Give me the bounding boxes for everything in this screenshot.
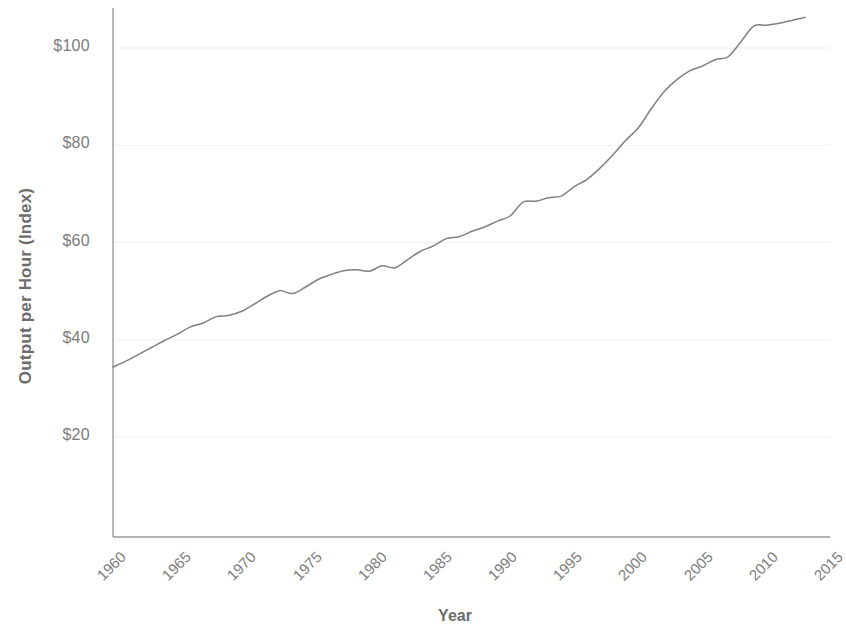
y-tick-label: $60	[12, 232, 90, 250]
x-axis-title: Year	[395, 607, 515, 625]
y-tick-label: $100	[12, 37, 90, 55]
y-tick-label: $40	[12, 329, 90, 347]
data-line	[113, 17, 805, 367]
axis-lines-group	[113, 8, 830, 537]
data-series-group	[113, 17, 805, 367]
gridlines-group	[114, 48, 830, 437]
y-axis-title: Output per Hour (Index)	[16, 176, 36, 396]
y-tick-label: $20	[12, 426, 90, 444]
y-tick-label: $80	[12, 134, 90, 152]
